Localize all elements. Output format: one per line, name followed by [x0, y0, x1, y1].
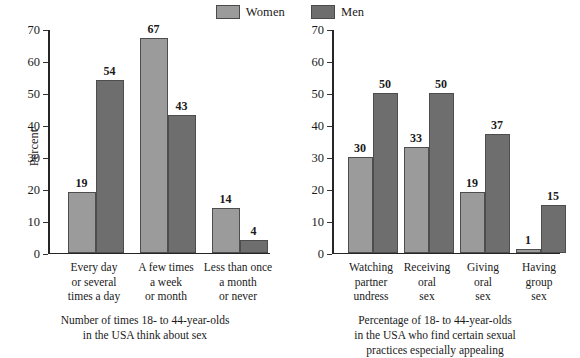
y-tick-label: 30	[312, 151, 325, 166]
y-tick-label: 40	[28, 119, 41, 134]
y-tick-label: 0	[318, 247, 324, 262]
category-label-line: Every day	[57, 260, 131, 275]
y-tick-mark	[43, 190, 48, 191]
legend-swatch-men-icon	[311, 5, 335, 19]
bar-women: 1	[516, 249, 541, 252]
category-label-line: sex	[511, 289, 567, 304]
bar-group: 1937	[460, 30, 510, 253]
bar-value-label: 1	[525, 233, 531, 248]
y-tick-label: 20	[312, 183, 325, 198]
category-label: Every dayor severaltimes a day	[57, 260, 131, 304]
y-tick-mark	[43, 254, 48, 255]
y-tick-mark	[327, 62, 332, 63]
y-tick-mark	[327, 126, 332, 127]
category-label-line: or several	[57, 275, 131, 290]
bars-layer-left: 19546743144	[50, 30, 271, 253]
bar-value-label: 54	[104, 64, 116, 79]
chart-panel-left: Percent 010203040506070 19546743144 Ever…	[0, 22, 290, 353]
bar-men: 43	[168, 115, 196, 253]
caption-right: Percentage of 18- to 44-year-oldsin the …	[300, 313, 570, 358]
y-tick-mark	[43, 30, 48, 31]
category-label-line: oral	[399, 275, 455, 290]
y-tick-mark	[327, 222, 332, 223]
category-label-line: Receiving	[399, 260, 455, 275]
x-axis-category-labels-left: Every dayor severaltimes a dayA few time…	[48, 260, 270, 304]
legend-label-men: Men	[341, 6, 364, 19]
bar-value-label: 4	[251, 224, 257, 239]
bar-value-label: 33	[410, 131, 422, 146]
plot-area-left: 010203040506070 19546743144	[48, 30, 270, 254]
category-label: Receivingoralsex	[399, 260, 455, 304]
bar-men: 50	[373, 93, 398, 253]
bar-value-label: 50	[435, 77, 447, 92]
bar-value-label: 30	[354, 141, 366, 156]
bar-men: 37	[485, 134, 510, 252]
category-label: Less than oncea monthor never	[201, 260, 275, 304]
y-tick-label: 70	[28, 23, 41, 38]
chart-legend: Women Men	[0, 4, 580, 20]
y-tick-label: 10	[312, 215, 325, 230]
y-tick-mark	[43, 222, 48, 223]
bar-value-label: 43	[176, 99, 188, 114]
x-axis-line-right	[332, 253, 560, 255]
caption-line: in the USA think about sex	[10, 328, 280, 343]
category-label-line: a month	[201, 275, 275, 290]
category-label-line: oral	[455, 275, 511, 290]
y-tick-label: 60	[28, 55, 41, 70]
bar-women: 19	[460, 192, 485, 253]
caption-left: Number of times 18- to 44-year-oldsin th…	[10, 313, 280, 343]
x-axis-category-labels-right: WatchingpartnerundressReceivingoralsexGi…	[332, 260, 560, 304]
y-tick-mark	[43, 62, 48, 63]
bar-value-label: 19	[466, 176, 478, 191]
y-tick-label: 70	[312, 23, 325, 38]
bar-men: 4	[240, 240, 268, 253]
caption-line: practices especially appealing	[300, 343, 570, 358]
category-label-line: undress	[343, 289, 399, 304]
y-tick-label: 50	[312, 87, 325, 102]
y-tick-mark	[43, 158, 48, 159]
bar-value-label: 19	[76, 176, 88, 191]
y-tick-mark	[327, 190, 332, 191]
bar-group: 144	[212, 30, 268, 253]
bar-men: 15	[541, 205, 566, 253]
category-label: Watchingpartnerundress	[343, 260, 399, 304]
y-tick-mark	[43, 126, 48, 127]
legend-entry-women: Women	[216, 5, 285, 19]
y-tick-label: 0	[34, 247, 40, 262]
category-label: Havinggroupsex	[511, 260, 567, 304]
legend-label-women: Women	[246, 6, 285, 19]
category-label-line: A few times	[129, 260, 203, 275]
caption-line: Number of times 18- to 44-year-olds	[10, 313, 280, 328]
bar-value-label: 37	[491, 118, 503, 133]
y-tick-label: 30	[28, 151, 41, 166]
y-tick-label: 60	[312, 55, 325, 70]
category-label-line: or month	[129, 289, 203, 304]
category-label-line: sex	[399, 289, 455, 304]
legend-entry-men: Men	[311, 5, 364, 19]
y-tick-label: 10	[28, 215, 41, 230]
category-label-line: Giving	[455, 260, 511, 275]
x-axis-line-left	[48, 253, 270, 255]
category-label: Givingoralsex	[455, 260, 511, 304]
y-tick-label: 20	[28, 183, 41, 198]
category-label-line: group	[511, 275, 567, 290]
bar-men: 54	[96, 80, 124, 253]
bar-group: 3050	[348, 30, 398, 253]
bar-women: 33	[404, 147, 429, 253]
category-label-line: a week	[129, 275, 203, 290]
bar-men: 50	[429, 93, 454, 253]
caption-line: Percentage of 18- to 44-year-olds	[300, 313, 570, 328]
category-label-line: or never	[201, 289, 275, 304]
bar-group: 1954	[68, 30, 124, 253]
category-label-line: sex	[455, 289, 511, 304]
legend-swatch-women-icon	[216, 5, 240, 19]
y-tick-mark	[327, 254, 332, 255]
plot-area-right: 010203040506070 305033501937115	[332, 30, 560, 254]
bar-women: 19	[68, 192, 96, 253]
bar-value-label: 15	[547, 189, 559, 204]
bar-group: 115	[516, 30, 566, 253]
bar-group: 6743	[140, 30, 196, 253]
y-tick-mark	[327, 158, 332, 159]
bars-layer-right: 305033501937115	[334, 30, 561, 253]
